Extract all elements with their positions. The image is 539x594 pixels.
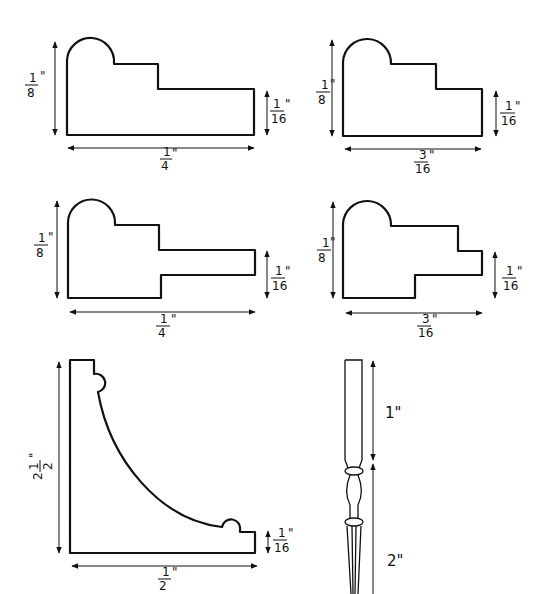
baluster-upper-ring — [345, 467, 363, 475]
svg-text:": " — [517, 264, 523, 278]
svg-text:1: 1 — [321, 78, 329, 92]
width-label-num: 1 — [163, 145, 171, 159]
svg-text:1: 1 — [162, 565, 170, 579]
profile-b: 1 8 " 1 16 " 3 16 " — [316, 39, 521, 176]
svg-text:1: 1 — [27, 462, 41, 470]
profile-b-outline — [343, 39, 482, 136]
svg-text:": " — [330, 77, 336, 91]
height-label-num: 1 — [29, 71, 37, 85]
svg-text:": " — [285, 264, 291, 278]
step-label-num: 1 — [273, 97, 281, 111]
profile-d: 1 8 " 1 16 " 3 16 " — [317, 201, 523, 340]
baluster-taper — [347, 526, 361, 594]
svg-text:8: 8 — [318, 251, 326, 265]
baluster-upper-label: 1" — [385, 404, 401, 422]
height-label-den: 8 — [27, 86, 35, 100]
svg-text:": " — [171, 312, 177, 326]
svg-text:1: 1 — [278, 526, 286, 540]
molding-diagram: 1 8 " 1 16 " 1 4 " 1 8 " 1 16 " 3 16 " — [0, 0, 539, 594]
step-label-den: 16 — [271, 112, 286, 126]
svg-text:3: 3 — [419, 148, 427, 162]
profile-e-outline — [70, 360, 255, 553]
profile-a-outline — [67, 38, 254, 135]
svg-text:1: 1 — [160, 312, 168, 326]
profile-c: 1 8 " 1 16 " 1 4 " — [34, 199, 291, 340]
baluster-vase — [347, 475, 362, 505]
svg-text:1: 1 — [506, 264, 514, 278]
svg-text:8: 8 — [318, 93, 326, 107]
svg-text:": " — [288, 526, 294, 540]
svg-text:4: 4 — [158, 326, 166, 340]
baluster-lower-label: 2" — [387, 552, 403, 570]
svg-text:16: 16 — [272, 279, 287, 293]
svg-text:16: 16 — [503, 279, 518, 293]
svg-text:": " — [429, 148, 435, 162]
profile-e: 2 1 2 " 1 16 " 1 2 " — [27, 360, 294, 593]
svg-text:": " — [515, 99, 521, 113]
svg-text:1: 1 — [322, 236, 330, 250]
svg-text:16: 16 — [415, 162, 430, 176]
width-label-den: 4 — [161, 159, 169, 173]
svg-text:16: 16 — [418, 326, 433, 340]
svg-text:8: 8 — [36, 246, 44, 260]
svg-text:3: 3 — [422, 312, 430, 326]
svg-text:1: 1 — [505, 99, 513, 113]
svg-text:": " — [330, 235, 336, 249]
profile-d-outline — [343, 201, 482, 298]
svg-text:": " — [27, 452, 41, 458]
baluster-shaft — [345, 360, 362, 468]
svg-text:1: 1 — [275, 264, 283, 278]
svg-text:2: 2 — [159, 579, 167, 593]
profile-c-outline — [68, 199, 255, 298]
svg-text:": " — [48, 230, 54, 244]
svg-text:1: 1 — [38, 231, 46, 245]
svg-text:": " — [432, 312, 438, 326]
svg-text:16: 16 — [274, 541, 289, 555]
baluster: 1" 2" — [345, 360, 403, 594]
svg-text:": " — [285, 97, 291, 111]
baluster-lower-ring — [345, 518, 363, 526]
svg-text:": " — [172, 565, 178, 579]
svg-text:2: 2 — [31, 472, 45, 480]
svg-text:16: 16 — [501, 114, 516, 128]
svg-text:2: 2 — [41, 462, 55, 470]
svg-text:": " — [172, 146, 178, 160]
svg-text:": " — [40, 69, 46, 83]
profile-a: 1 8 " 1 16 " 1 4 " — [25, 38, 291, 173]
